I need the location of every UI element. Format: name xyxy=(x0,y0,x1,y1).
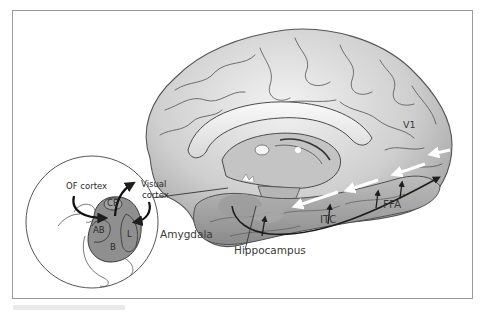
label-visual-cortex-line1: Visual xyxy=(141,180,166,189)
label-amygdala: Amygdala xyxy=(160,229,213,240)
figure-caption-truncated xyxy=(13,305,125,310)
label-ffa: FFA xyxy=(383,199,401,210)
amygdala-inset xyxy=(26,156,158,288)
label-v1: V1 xyxy=(403,120,416,130)
label-visual-cortex-line2: cortex xyxy=(142,191,169,200)
brain-diagram xyxy=(0,0,486,314)
label-hippocampus: Hippocampus xyxy=(234,245,306,256)
label-of-cortex: OF cortex xyxy=(66,182,107,191)
hippocampus-region xyxy=(252,205,284,223)
brain-hemisphere xyxy=(146,29,452,247)
label-nucleus-b: B xyxy=(110,243,116,252)
label-nucleus-ce: CE xyxy=(107,199,118,208)
label-nucleus-ab: AB xyxy=(93,226,105,235)
label-nucleus-l: L xyxy=(127,230,132,239)
label-itc: ITC xyxy=(320,214,336,225)
